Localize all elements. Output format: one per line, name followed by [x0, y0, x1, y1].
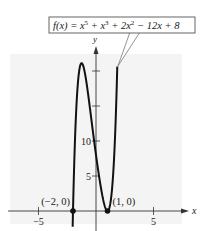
y-tick-label: 5 — [86, 171, 91, 182]
y-axis-arrow-icon — [94, 46, 99, 54]
x-axis-label: x — [191, 205, 197, 216]
polynomial-graph: x −55 y 510 (−2, 0)(1, 0) f(x) = x5 + x3… — [0, 0, 207, 231]
x-axis-arrow-icon — [181, 209, 189, 214]
y-axis-label: y — [92, 34, 97, 44]
point-label: (1, 0) — [113, 196, 136, 208]
function-label: f(x) = x5 + x3 + 2x2 − 12x + 8 — [53, 19, 180, 32]
y-tick-label: 10 — [81, 136, 91, 147]
point-label: (−2, 0) — [41, 196, 70, 208]
x-tick-label: −5 — [33, 216, 44, 227]
x-tick-label: 5 — [151, 216, 156, 227]
